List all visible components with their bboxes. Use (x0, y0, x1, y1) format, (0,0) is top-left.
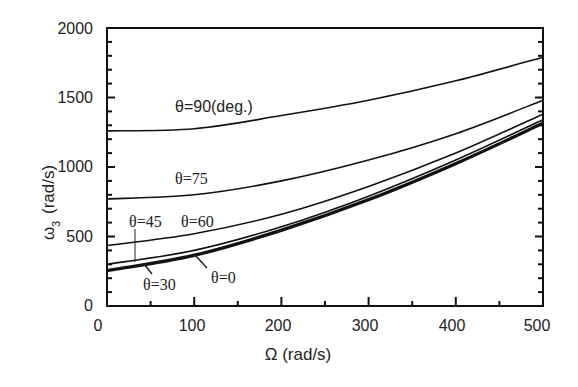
curves (107, 57, 543, 271)
axis-ticks (107, 28, 543, 306)
xtick-300: 300 (352, 317, 379, 334)
xtick-0: 0 (94, 317, 103, 334)
y-axis-title-subscript: 3 (50, 221, 62, 227)
y-axis-title-symbol: ω (39, 227, 58, 240)
xtick-500: 500 (524, 317, 551, 334)
curve-label-theta-45: θ=45 (129, 213, 162, 230)
curve-label-theta-60: θ=60 (181, 213, 214, 230)
curve-90 (107, 57, 543, 131)
ytick-0: 0 (84, 297, 93, 314)
curve-label-theta-90: θ=90(deg.) (175, 98, 253, 115)
curve-0 (107, 124, 543, 271)
leader-line-theta-0 (195, 255, 207, 268)
plot-frame (107, 28, 543, 306)
ytick-2000: 2000 (57, 20, 93, 37)
curve-label-theta-30: θ=30 (143, 276, 176, 293)
ytick-500: 500 (66, 228, 93, 245)
y-axis-title-unit: (rad/s) (39, 165, 58, 214)
y-axis-title: ω 3 (rad/s) (39, 165, 62, 240)
chart: 0 500 1000 1500 2000 0 100 200 300 400 5… (0, 0, 578, 387)
ytick-1000: 1000 (57, 158, 93, 175)
curve-60 (107, 114, 543, 245)
xtick-100: 100 (179, 317, 206, 334)
x-axis-title: Ω (rad/s) (265, 345, 332, 364)
xtick-200: 200 (265, 317, 292, 334)
curve-45 (107, 120, 543, 265)
curve-label-theta-0: θ=0 (211, 269, 236, 286)
curve-label-theta-75: θ=75 (175, 170, 208, 187)
ytick-1500: 1500 (57, 89, 93, 106)
xtick-400: 400 (439, 317, 466, 334)
